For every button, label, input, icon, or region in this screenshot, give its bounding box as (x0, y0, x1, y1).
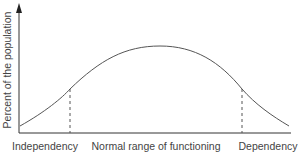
y-axis-label: Percent of the population (1, 12, 13, 129)
bell-curve (20, 46, 289, 126)
y-axis-arrow-icon (16, 3, 22, 13)
x-label-independency: Independency (12, 140, 78, 152)
x-label-normal-range: Normal range of functioning (92, 140, 221, 152)
chart-canvas (0, 0, 300, 159)
x-label-dependency: Dependency (239, 140, 298, 152)
